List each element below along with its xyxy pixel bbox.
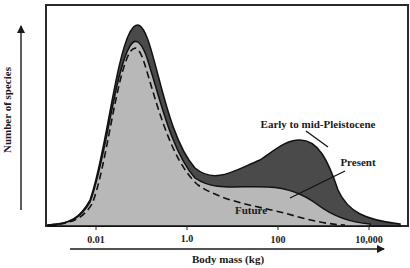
- annotation-future: Future: [235, 204, 267, 216]
- annotation-present: Present: [340, 156, 376, 168]
- x-tick-label: 0.01: [87, 234, 105, 245]
- x-tick-label: 100: [271, 234, 286, 245]
- annotation-early-pleistocene: Early to mid-Pleistocene: [261, 118, 376, 130]
- x-tick-label: 10,000: [355, 234, 383, 245]
- chart: 0.01 1.0 100 10,000 Body mass (kg) Numbe…: [0, 0, 410, 268]
- x-tick-label: 1.0: [181, 233, 194, 244]
- x-axis-label: Body mass (kg): [192, 253, 264, 266]
- y-axis-label: Number of species: [1, 66, 13, 153]
